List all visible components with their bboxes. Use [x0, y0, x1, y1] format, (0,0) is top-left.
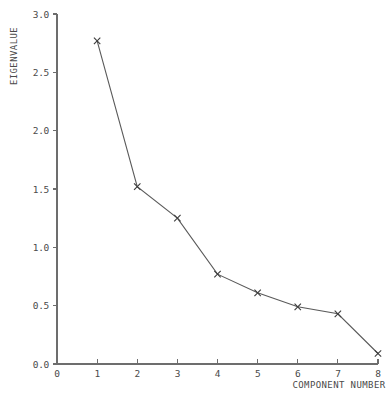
scree-plot-figure: 0.00.51.01.52.02.53.0 EIGENVALUE 0123456…	[0, 0, 388, 406]
x-axis-group: 012345678 COMPONENT NUMBER	[54, 359, 385, 390]
data-point-marker	[94, 38, 100, 44]
x-tick-label: 4	[215, 368, 221, 379]
x-tick-label: 5	[255, 368, 260, 379]
chart-canvas: 0.00.51.01.52.02.53.0 EIGENVALUE 0123456…	[0, 0, 388, 406]
y-tick-label: 0.0	[33, 359, 50, 370]
x-axis-tick-labels: 012345678	[54, 368, 381, 379]
y-axis-tick-labels: 0.00.51.01.52.02.53.0	[33, 9, 50, 370]
y-tick-label: 2.5	[33, 67, 49, 78]
y-tick-label: 0.5	[33, 300, 49, 311]
eigenvalue-data-markers	[94, 38, 381, 357]
data-point-marker	[375, 350, 381, 356]
x-tick-label: 6	[295, 368, 301, 379]
eigenvalue-series-line	[97, 41, 378, 354]
y-tick-label: 1.5	[33, 184, 49, 195]
y-tick-label: 1.0	[33, 242, 50, 253]
y-axis-title: EIGENVALUE	[9, 27, 19, 85]
y-tick-label: 2.0	[33, 125, 50, 136]
y-axis-group: 0.00.51.01.52.02.53.0 EIGENVALUE	[9, 9, 57, 370]
x-tick-label: 0	[54, 368, 60, 379]
data-point-marker	[134, 183, 140, 189]
y-tick-label: 3.0	[33, 9, 50, 20]
x-tick-label: 8	[375, 368, 381, 379]
x-axis-ticks	[57, 359, 378, 364]
x-tick-label: 2	[135, 368, 140, 379]
data-point-marker	[254, 290, 260, 296]
x-axis-title: COMPONENT NUMBER	[292, 380, 385, 390]
x-tick-label: 3	[175, 368, 180, 379]
x-tick-label: 1	[94, 368, 100, 379]
data-point-marker	[174, 215, 180, 221]
data-series-group	[94, 38, 381, 357]
data-point-marker	[214, 271, 220, 277]
x-tick-label: 7	[335, 368, 340, 379]
